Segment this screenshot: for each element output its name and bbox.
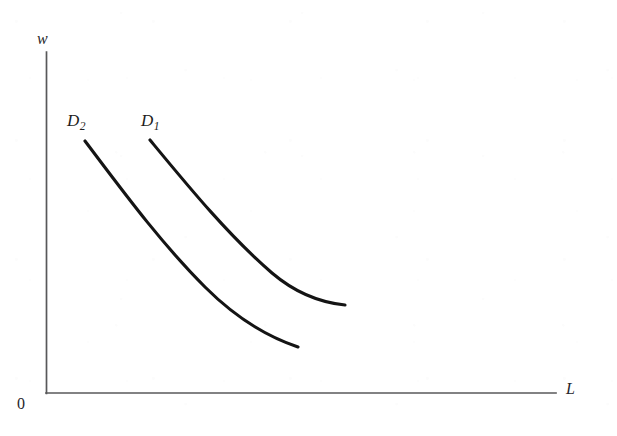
curve-label-d1-subscript: 1 [154, 120, 160, 132]
demand-curve-d1 [150, 140, 345, 305]
y-axis-label: w [37, 31, 48, 47]
diagram-canvas [0, 0, 617, 436]
curve-label-d2-letter: D [67, 111, 79, 130]
figure-root: w L 0 D2 D1 [0, 0, 617, 436]
curve-label-d1-letter: D [141, 111, 153, 130]
curve-label-d2-subscript: 2 [80, 120, 86, 132]
axes-group [46, 52, 556, 394]
curves-group [85, 140, 345, 347]
demand-curve-d2 [85, 141, 298, 347]
curve-label-d2: D2 [67, 112, 85, 129]
origin-label: 0 [17, 396, 25, 412]
curve-label-d1: D1 [141, 112, 159, 129]
x-axis-label: L [566, 381, 575, 397]
